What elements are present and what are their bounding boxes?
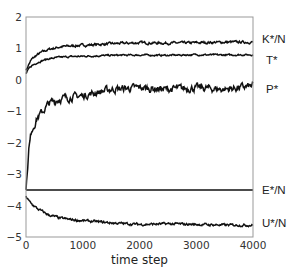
x-tick-label: 1000 <box>69 239 96 251</box>
y-tick-label: 1 <box>15 42 22 54</box>
x-tick-label: 2000 <box>126 239 153 251</box>
x-tick-label: 3000 <box>183 239 210 251</box>
series-labels: K*/NT*P*E*/NU*/N <box>262 33 286 229</box>
y-tick-label: 2 <box>15 11 22 23</box>
x-axis-label: time step <box>111 253 168 267</box>
x-tick-label: 4000 <box>240 239 267 251</box>
series-line-t <box>26 54 253 74</box>
chart: 210−1−2−3−4−5 01000200030004000 K*/NT*P*… <box>0 0 295 272</box>
y-tick-label: −3 <box>7 168 22 180</box>
series-line-p <box>26 83 253 190</box>
series-label: U*/N <box>262 217 286 229</box>
y-tick-label: −2 <box>7 137 22 149</box>
series-line-un <box>26 196 253 227</box>
series-label: P* <box>266 83 279 95</box>
y-axis-ticks: 210−1−2−3−4−5 <box>7 11 23 243</box>
series-label: K*/N <box>262 33 286 45</box>
series-lines <box>26 41 253 227</box>
series-label: T* <box>266 54 278 66</box>
series-label: E*/N <box>262 184 286 196</box>
x-axis-ticks: 01000200030004000 <box>23 239 267 251</box>
y-tick-label: −5 <box>7 231 22 243</box>
plot-frame <box>26 17 253 237</box>
y-tick-label: −4 <box>7 200 23 212</box>
x-tick-label: 0 <box>23 239 30 251</box>
y-tick-label: −1 <box>7 105 22 117</box>
y-tick-label: 0 <box>15 74 22 86</box>
